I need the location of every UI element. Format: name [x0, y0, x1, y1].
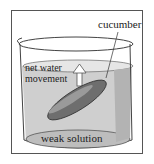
diagram-root: cucumber net water movement weak solutio… [0, 0, 154, 164]
arrow-label-line2: movement [25, 74, 67, 84]
cucumber-label: cucumber [98, 19, 141, 30]
arrow-label-line1: net water [25, 63, 62, 73]
solution-label: weak solution [41, 133, 102, 144]
